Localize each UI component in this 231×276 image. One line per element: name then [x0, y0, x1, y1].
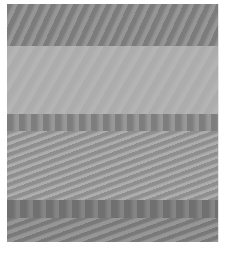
band-light-smooth [7, 46, 218, 114]
band-dark-vertical-stripes-lower [7, 200, 218, 218]
band-dark-diagonal-waves-bottom [7, 218, 218, 242]
band-dark-vertical-stripes [7, 114, 218, 131]
band-dark-diagonal-waves-top [7, 4, 218, 46]
moire-image [7, 4, 219, 242]
band-medium-diagonal-waves [7, 131, 218, 200]
